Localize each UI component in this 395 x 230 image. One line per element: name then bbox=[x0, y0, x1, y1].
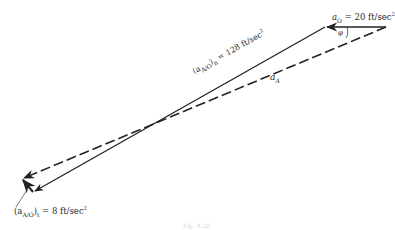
vector-a-ao-tangential bbox=[23, 180, 33, 192]
label-a-a: aA bbox=[270, 73, 280, 84]
angle-phi-label: φ bbox=[338, 30, 343, 37]
vector-a-ao-normal bbox=[35, 27, 325, 191]
leader-line bbox=[16, 190, 27, 207]
vector-a-a-dashed bbox=[24, 27, 386, 178]
figure-caption: Fig. 4.28 bbox=[183, 222, 210, 229]
angle-phi-arc bbox=[346, 27, 348, 38]
label-a-o: aO = 20 ft/sec2 bbox=[332, 12, 395, 24]
label-a-ao-tangential: (aA/O)t = 8 ft/sec2 bbox=[14, 206, 87, 218]
